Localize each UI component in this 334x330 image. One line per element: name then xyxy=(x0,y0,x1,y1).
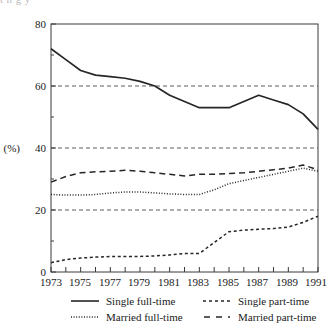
x-tick-label: 1987 xyxy=(240,277,274,288)
chart-legend: Single full-time Single part-time Marrie… xyxy=(70,294,332,326)
legend-key-solid-icon xyxy=(70,295,100,307)
legend-label: Single part-time xyxy=(238,295,309,307)
legend-item-married-full-time: Married full-time xyxy=(70,310,183,324)
y-axis-label: (%) xyxy=(0,143,20,154)
x-axis-ticks xyxy=(51,267,318,272)
x-tick-label: 1979 xyxy=(122,277,156,288)
legend-key-dotted-icon xyxy=(70,311,100,323)
x-tick-label: 1983 xyxy=(181,277,215,288)
legend-item-married-part-time: Married part-time xyxy=(202,310,317,324)
y-tick-label: 60 xyxy=(22,81,46,92)
y-axis-ticks xyxy=(51,24,56,272)
data-series-layer xyxy=(51,49,318,263)
legend-item-single-full-time: Single full-time xyxy=(70,294,175,308)
x-tick-label: 1991 xyxy=(299,277,333,288)
legend-label: Single full-time xyxy=(106,295,175,307)
series-line-single-full-time xyxy=(51,49,318,130)
legend-item-single-part-time: Single part-time xyxy=(202,294,309,308)
legend-label: Married full-time xyxy=(106,311,183,323)
legend-key-dashed-icon xyxy=(202,311,232,323)
y-tick-label: 20 xyxy=(22,205,46,216)
gridlines xyxy=(51,86,318,210)
chart-figure: 80 60 40 20 0 (%) 1973 1975 1977 1979 19… xyxy=(0,0,334,330)
series-line-single-part-time xyxy=(51,216,318,263)
legend-label: Married part-time xyxy=(238,311,317,323)
y-tick-label: 80 xyxy=(22,19,46,30)
x-tick-label: 1975 xyxy=(63,277,97,288)
y-tick-label: 40 xyxy=(22,143,46,154)
legend-key-dashed-fine-icon xyxy=(202,295,232,307)
